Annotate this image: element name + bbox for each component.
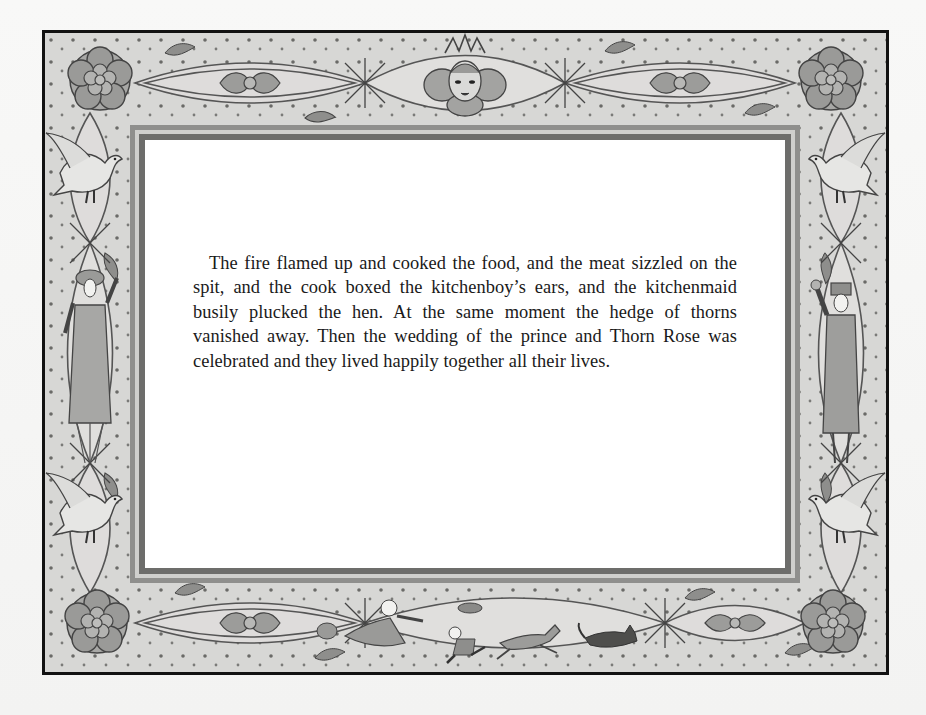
story-paragraph: The fire flamed up and cooked the food, … bbox=[193, 251, 737, 373]
storybook-page: The fire flamed up and cooked the food, … bbox=[0, 0, 926, 715]
text-panel: The fire flamed up and cooked the food, … bbox=[145, 140, 785, 568]
